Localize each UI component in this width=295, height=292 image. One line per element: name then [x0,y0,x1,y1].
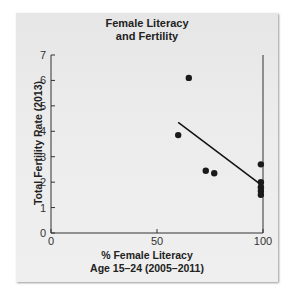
data-point [258,192,264,198]
data-point [203,168,209,174]
data-point [175,132,181,138]
x-label-line-1: % Female Literacy [16,249,278,262]
trend-line [178,122,261,184]
x-tick-label: 100 [254,235,272,247]
data-point [186,75,192,81]
y-axis-label: Total Fertility Rate (2013) [32,63,44,223]
data-point [211,170,217,176]
data-point [258,161,264,167]
y-tick-label: 7 [40,49,46,61]
x-tick-label: 0 [48,235,54,247]
x-tick-label: 50 [151,235,163,247]
y-tick-label: 0 [40,227,46,239]
x-axis-label: % Female Literacy Age 15–24 (2005–2011) [16,249,278,275]
x-label-line-2: Age 15–24 (2005–2011) [16,262,278,275]
